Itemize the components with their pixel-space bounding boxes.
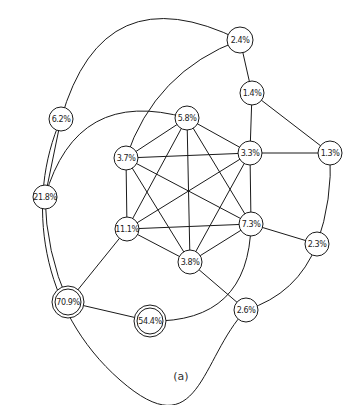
- edge-n58-n73: [187, 118, 251, 224]
- node-label: 2.4%: [231, 36, 251, 45]
- node-label: 6.2%: [52, 115, 72, 124]
- node-label: 21.8%: [33, 193, 57, 202]
- node-label: 2.6%: [237, 306, 257, 315]
- node-n33: 3.3%: [238, 141, 262, 165]
- edge-n24-n37: [126, 40, 240, 158]
- node-label: 1.4%: [243, 89, 263, 98]
- edge-outer-arc: [43, 119, 246, 405]
- node-n73: 7.3%: [239, 212, 263, 236]
- node-n24: 2.4%: [227, 27, 253, 53]
- edge-n24-n62: [61, 19, 240, 119]
- node-n709: 70.9%: [52, 286, 84, 318]
- network-diagram: 2.4%1.4%6.2%5.8%3.7%3.3%1.3%21.8%11.1%7.…: [0, 0, 363, 405]
- node-n13: 1.3%: [318, 141, 342, 165]
- node-label: 2.3%: [308, 240, 328, 249]
- node-n58: 5.8%: [175, 106, 199, 130]
- node-label: 70.9%: [56, 298, 80, 307]
- edge-n13-n23: [317, 153, 330, 244]
- node-n14: 1.4%: [240, 81, 264, 105]
- node-label: 7.3%: [242, 220, 262, 229]
- node-n62: 6.2%: [49, 107, 73, 131]
- edge-n23-n26: [246, 244, 317, 310]
- node-label: 54.4%: [138, 317, 162, 326]
- node-label: 11.1%: [115, 225, 139, 234]
- figure-caption: (a): [173, 370, 188, 383]
- node-n23: 2.3%: [305, 232, 329, 256]
- node-n26: 2.6%: [234, 298, 258, 322]
- node-n544: 54.4%: [134, 305, 166, 337]
- edge-layer: [43, 19, 331, 405]
- node-n111: 11.1%: [115, 217, 140, 241]
- node-n37: 3.7%: [114, 146, 138, 170]
- node-label: 3.3%: [241, 149, 261, 158]
- edge-n14-n13: [252, 93, 330, 153]
- node-label: 1.3%: [321, 149, 341, 158]
- node-n218: 21.8%: [33, 185, 58, 209]
- node-label: 5.8%: [178, 114, 198, 123]
- node-label: 3.7%: [117, 154, 137, 163]
- node-label: 3.8%: [181, 258, 201, 267]
- node-n38: 3.8%: [178, 250, 202, 274]
